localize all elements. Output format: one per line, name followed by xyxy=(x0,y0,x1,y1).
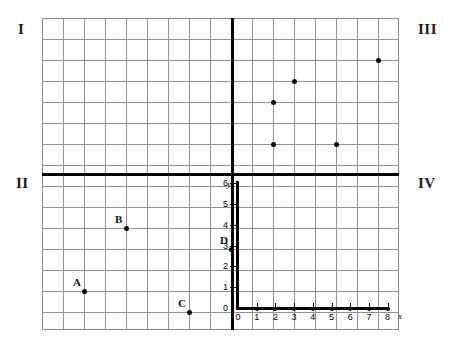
quadrant-label-I: I xyxy=(18,22,24,37)
point-label-c: C xyxy=(178,298,186,309)
figure-canvas: I III II IV ABCD 0123456780123456 x y xyxy=(0,0,458,343)
quadrant-label-II: II xyxy=(16,176,29,191)
plot-point-c xyxy=(187,310,192,315)
point-label-a: A xyxy=(73,277,81,288)
point-label-d: D xyxy=(220,235,228,246)
plot-point-b xyxy=(124,226,129,231)
main-vertical-axis xyxy=(231,18,234,330)
quadrant-label-III: III xyxy=(418,22,437,37)
plot-point-unlabeled-4 xyxy=(334,142,339,147)
plot-point-unlabeled-2 xyxy=(271,100,276,105)
point-label-b: B xyxy=(115,214,122,225)
quadrant-label-IV: IV xyxy=(418,176,436,191)
plot-point-unlabeled-5 xyxy=(376,58,381,63)
plot-point-d xyxy=(229,247,234,252)
plot-point-unlabeled-1 xyxy=(271,142,276,147)
plot-point-unlabeled-3 xyxy=(292,79,297,84)
plot-point-a xyxy=(82,289,87,294)
main-horizontal-axis xyxy=(42,173,399,176)
